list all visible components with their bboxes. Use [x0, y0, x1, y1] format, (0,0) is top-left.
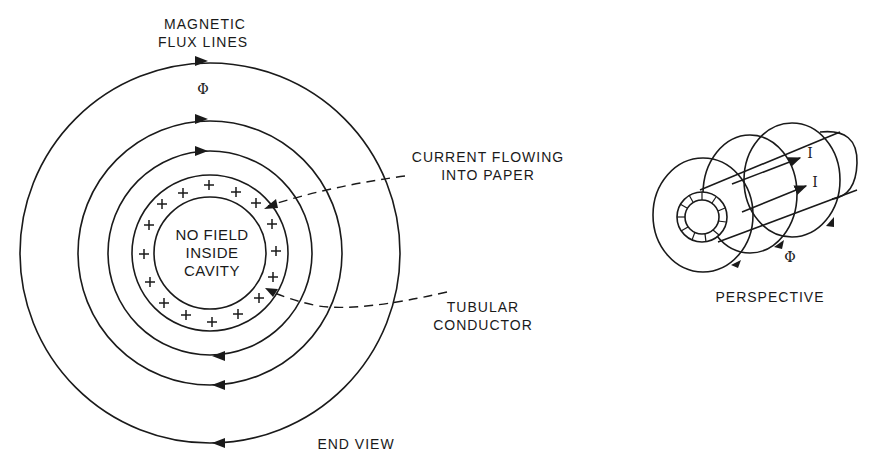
arrow-right-icon — [195, 56, 208, 66]
diagram-canvas: MAGNETIC FLUX LINES Φ NO FIELD INSIDE CA… — [0, 0, 879, 474]
cavity-label-line3: CAVITY — [184, 262, 240, 279]
flux-direction-arrows-top — [195, 56, 208, 156]
plus-icon — [144, 220, 154, 230]
perspective-view: I I Φ PERSPECTIVE — [653, 123, 857, 305]
plus-icon — [204, 180, 214, 190]
tube-bottom-edge — [718, 190, 857, 242]
cavity-label-line1: NO FIELD — [175, 226, 248, 243]
plus-icon — [254, 293, 264, 303]
flux-symbol: Φ — [197, 81, 208, 97]
plus-icon — [231, 187, 241, 197]
plus-icon — [271, 246, 281, 256]
arrow-left-icon — [212, 351, 225, 361]
arrow-right-icon — [195, 146, 208, 156]
conductor-label-line1: TUBULAR — [447, 299, 519, 315]
plus-icon — [267, 219, 277, 229]
plus-icon — [145, 277, 155, 287]
leader-arrow-icon — [264, 199, 278, 209]
current-leader-line — [268, 176, 405, 206]
end-view: MAGNETIC FLUX LINES Φ NO FIELD INSIDE CA… — [20, 16, 564, 452]
conductor-leader-line — [270, 291, 447, 307]
plus-icon — [181, 310, 191, 320]
current-symbol-2: I — [812, 174, 818, 190]
arrow-right-icon — [195, 114, 208, 124]
arrow-left-icon — [212, 380, 225, 390]
end-view-label: END VIEW — [317, 436, 394, 452]
plus-icon — [139, 249, 149, 259]
cavity-label-line2: INSIDE — [185, 244, 238, 261]
arrow-left-icon — [212, 438, 225, 448]
plus-icon — [159, 298, 169, 308]
current-symbol-1: I — [807, 145, 813, 161]
flux-direction-arrows-bottom — [212, 351, 225, 448]
perspective-label: PERSPECTIVE — [715, 289, 824, 305]
plus-icon — [233, 309, 243, 319]
current-label-line1: CURRENT FLOWING — [412, 149, 564, 165]
perspective-flux-symbol: Φ — [784, 249, 795, 265]
plus-icon — [268, 272, 278, 282]
plus-icon — [251, 198, 261, 208]
flux-label-line1: MAGNETIC — [164, 16, 246, 32]
plus-icon — [157, 199, 167, 209]
conductor-label-line2: CONDUCTOR — [433, 317, 533, 333]
plus-icon — [178, 188, 188, 198]
plus-icon — [207, 317, 217, 327]
current-label-line2: INTO PAPER — [441, 167, 535, 183]
flux-label-line2: FLUX LINES — [158, 34, 248, 50]
